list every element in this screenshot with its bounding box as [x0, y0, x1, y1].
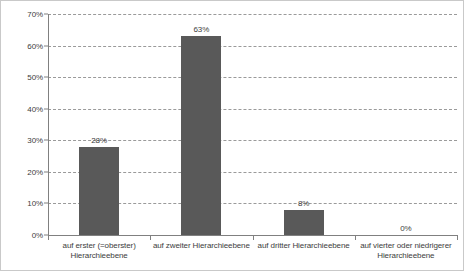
x-axis-category-label: auf erster (=oberster)Hierarchieebene [48, 241, 150, 261]
y-axis-tick-label: 30% [27, 136, 43, 145]
bar-slot: 8% [253, 14, 355, 235]
x-axis-tick-mark [457, 235, 458, 240]
bar [79, 147, 119, 235]
bar-value-label: 28% [91, 136, 107, 145]
y-axis-line [48, 14, 49, 235]
y-axis-tick-label: 60% [27, 41, 43, 50]
bar [181, 36, 221, 235]
bar-value-label: 63% [194, 25, 210, 34]
bar-slot: 63% [150, 14, 252, 235]
y-axis-tick-label: 40% [27, 104, 43, 113]
bar-slot: 0% [355, 14, 457, 235]
x-axis-category-label: auf dritter Hierarchieebene [253, 241, 355, 261]
x-axis-labels: auf erster (=oberster)Hierarchieebeneauf… [48, 241, 457, 261]
bar-slot: 28% [48, 14, 150, 235]
bar-value-label: 8% [298, 199, 309, 208]
bar [284, 210, 324, 235]
plot-area: 0%10%20%30%40%50%60%70% 28%63%8%0% [48, 14, 457, 235]
x-axis-category-label: auf vierter oder niedrigererHierarchieeb… [355, 241, 457, 261]
y-axis-tick-label: 50% [27, 73, 43, 82]
y-axis-tick-label: 70% [27, 10, 43, 19]
y-axis-tick-label: 0% [32, 231, 43, 240]
x-axis-category-label: auf zweiter Hierarchieebene [150, 241, 252, 261]
y-axis-tick-label: 20% [27, 167, 43, 176]
bars-group: 28%63%8%0% [48, 14, 457, 235]
y-axis-tick-label: 10% [27, 199, 43, 208]
bar-chart-figure: 0%10%20%30%40%50%60%70% 28%63%8%0% auf e… [0, 0, 464, 271]
bar-value-label: 0% [400, 224, 411, 233]
gridline-0pct [48, 235, 457, 236]
